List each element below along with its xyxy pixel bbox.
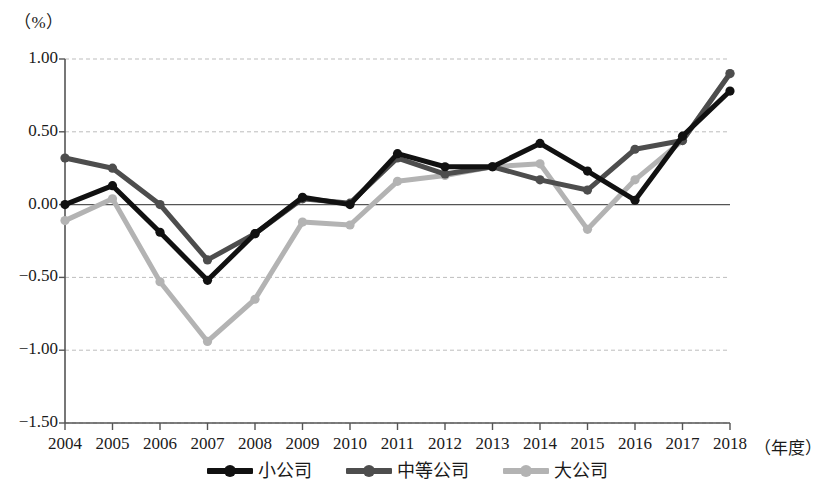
legend-item[interactable]: 大公司 [503, 462, 608, 480]
x-axis-tick-label: 2010 [333, 434, 367, 454]
chart-legend: 小公司中等公司大公司 [0, 462, 815, 480]
data-point [583, 167, 592, 176]
x-axis-tick-label: 2007 [191, 434, 225, 454]
x-axis-tick-label: 2012 [428, 434, 462, 454]
data-point [108, 194, 117, 203]
x-axis-name: （年度） [754, 434, 815, 459]
x-axis-tick-label: 2015 [571, 434, 605, 454]
data-point [155, 200, 164, 209]
x-axis-tick-label: 2014 [523, 434, 557, 454]
data-point [678, 132, 687, 141]
data-point [203, 337, 212, 346]
data-point [393, 177, 402, 186]
data-point [203, 276, 212, 285]
x-axis-tick-label: 2016 [618, 434, 652, 454]
data-point [60, 153, 69, 162]
data-point [535, 139, 544, 148]
data-point [60, 216, 69, 225]
x-axis-tick-label: 2013 [476, 434, 510, 454]
series-line [65, 74, 730, 260]
data-point [583, 225, 592, 234]
y-axis-tick-label: 0.00 [0, 194, 58, 214]
data-point [630, 175, 639, 184]
data-point [108, 164, 117, 173]
legend-swatch-icon [503, 468, 549, 474]
legend-swatch-icon [346, 468, 392, 474]
x-axis-tick-label: 2017 [666, 434, 700, 454]
line-chart: （%） 1.000.500.00−0.50−1.00−1.50 20042005… [0, 0, 815, 493]
data-point [250, 229, 259, 238]
y-axis-tick-label: −1.50 [0, 412, 58, 432]
data-point [203, 255, 212, 264]
data-point [60, 200, 69, 209]
data-point [630, 196, 639, 205]
legend-label: 大公司 [554, 462, 608, 480]
data-point [345, 220, 354, 229]
data-point [155, 277, 164, 286]
x-axis-tick-label: 2004 [48, 434, 82, 454]
data-point [155, 228, 164, 237]
data-point [440, 162, 449, 171]
x-axis-tick-label: 2005 [96, 434, 130, 454]
data-point [488, 162, 497, 171]
x-axis-tick-label: 2008 [238, 434, 272, 454]
data-point [250, 295, 259, 304]
plot-area [0, 0, 815, 493]
x-axis-tick-label: 2009 [286, 434, 320, 454]
data-point [345, 200, 354, 209]
legend-label: 小公司 [258, 462, 312, 480]
data-point [108, 181, 117, 190]
legend-item[interactable]: 小公司 [207, 462, 312, 480]
y-axis-tick-label: 0.50 [0, 121, 58, 141]
data-point [535, 175, 544, 184]
y-axis-tick-label: 1.00 [0, 48, 58, 68]
data-point [393, 149, 402, 158]
data-point [298, 217, 307, 226]
data-point [725, 86, 734, 95]
legend-swatch-icon [207, 468, 253, 474]
x-axis-tick-label: 2011 [381, 434, 414, 454]
x-axis-tick-label: 2018 [713, 434, 747, 454]
data-point [298, 193, 307, 202]
y-axis-tick-label: −0.50 [0, 266, 58, 286]
legend-label: 中等公司 [397, 462, 469, 480]
data-point [630, 145, 639, 154]
x-axis-tick-label: 2006 [143, 434, 177, 454]
y-axis-tick-label: −1.00 [0, 339, 58, 359]
data-point [535, 159, 544, 168]
legend-item[interactable]: 中等公司 [346, 462, 469, 480]
data-point [583, 185, 592, 194]
data-point [725, 69, 734, 78]
